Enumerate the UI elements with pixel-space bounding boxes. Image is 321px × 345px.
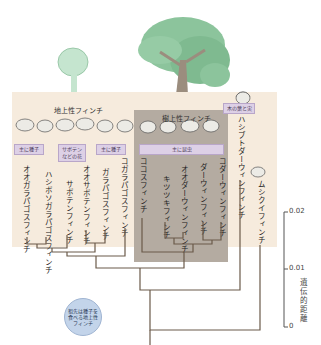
tree-branch bbox=[37, 235, 67, 248]
distance-axis bbox=[284, 212, 288, 327]
axis-tick-label: 0 bbox=[289, 322, 293, 330]
tree-branch bbox=[174, 238, 212, 244]
tree-branch bbox=[86, 230, 105, 243]
axis-title: 遺伝的距離 bbox=[297, 278, 308, 323]
tree-branch bbox=[140, 180, 240, 290]
tree-branch bbox=[27, 237, 46, 244]
axis-tick-label: 0.01 bbox=[289, 264, 305, 272]
tree-branch bbox=[96, 252, 184, 268]
tree-branch bbox=[142, 218, 193, 252]
ancestor-node: 祖先は種子を食べる地上性フィンチ bbox=[64, 298, 102, 336]
tree-branch bbox=[150, 245, 260, 330]
tree-branch bbox=[165, 222, 183, 238]
ancestor-label: 祖先は種子を食べる地上性フィンチ bbox=[67, 308, 99, 326]
axis-tick-label: 0.02 bbox=[289, 207, 305, 215]
tree-branch bbox=[203, 222, 221, 240]
phylogenetic-tree bbox=[0, 0, 321, 345]
